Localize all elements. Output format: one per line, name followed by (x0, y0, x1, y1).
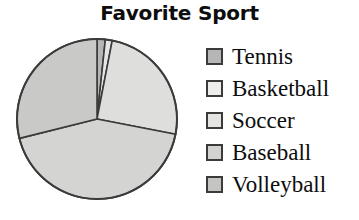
legend-item-label: Tennis (232, 45, 293, 68)
pie-chart-plot-area (14, 36, 180, 202)
chart-title: Favorite Sport (0, 1, 359, 25)
legend-swatch-icon (206, 48, 223, 65)
legend-swatch-icon (206, 112, 223, 129)
legend-swatch-icon (206, 144, 223, 161)
legend-item-label: Volleyball (232, 173, 326, 196)
legend-item-volleyball[interactable]: Volleyball (206, 168, 359, 200)
legend-swatch-icon (206, 80, 223, 97)
pie-chart-figure: Favorite Sport Tennis Basketball Soccer … (0, 0, 359, 220)
legend-item-basketball[interactable]: Basketball (206, 72, 359, 104)
legend-item-label: Basketball (232, 77, 329, 100)
legend-item-tennis[interactable]: Tennis (206, 40, 359, 72)
legend-item-soccer[interactable]: Soccer (206, 104, 359, 136)
legend-item-baseball[interactable]: Baseball (206, 136, 359, 168)
legend-swatch-icon (206, 176, 223, 193)
legend-item-label: Baseball (232, 141, 311, 164)
pie-svg (14, 36, 180, 202)
chart-legend: Tennis Basketball Soccer Baseball Volley… (206, 40, 359, 200)
legend-item-label: Soccer (232, 109, 295, 132)
pie-slice-soccer[interactable] (97, 40, 177, 134)
